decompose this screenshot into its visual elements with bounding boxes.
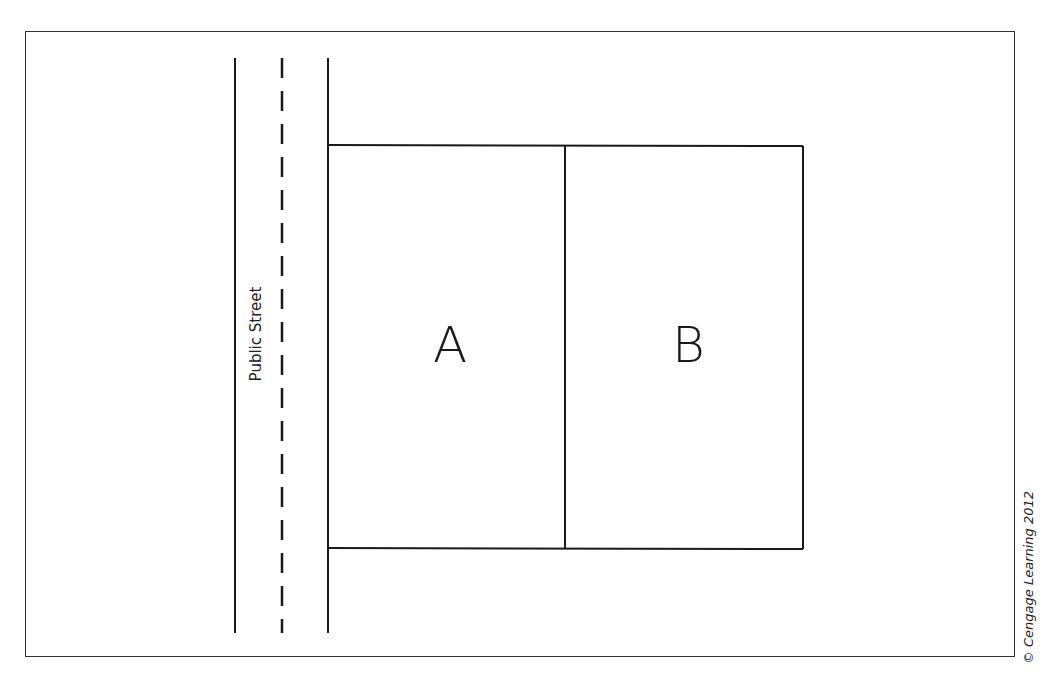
lot-b-label: B <box>672 320 705 370</box>
copyright-credit: © Cengage Learning 2012 <box>1021 488 1036 668</box>
street-label: Public Street <box>247 282 265 386</box>
site-plan-drawing <box>0 0 1044 674</box>
lot-a-label: A <box>433 320 467 370</box>
